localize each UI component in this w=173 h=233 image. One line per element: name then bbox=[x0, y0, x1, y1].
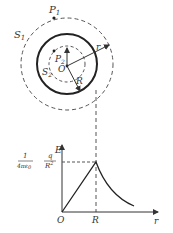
label-o: O bbox=[58, 64, 66, 74]
label-p1: P1 bbox=[48, 4, 60, 17]
label-R: R bbox=[75, 76, 83, 86]
label-s2: S2 bbox=[42, 67, 52, 78]
label-R-tick: R bbox=[91, 215, 99, 225]
label-r-axis: r bbox=[154, 216, 159, 226]
svg-text:1: 1 bbox=[23, 152, 27, 160]
svg-text:q: q bbox=[48, 152, 53, 160]
point-p2 bbox=[53, 50, 56, 53]
label-origin: O bbox=[57, 215, 65, 225]
radius-r-arrow bbox=[67, 45, 109, 66]
label-e-axis: E bbox=[54, 145, 62, 155]
charged-sphere-field-diagram: P1 S1 P2 S2 O r R E r O R 1 4πε0 q R2 bbox=[0, 0, 173, 233]
field-curve bbox=[62, 162, 134, 212]
svg-text:4πε0: 4πε0 bbox=[16, 162, 32, 170]
label-s1: S1 bbox=[14, 29, 25, 42]
label-r: r bbox=[96, 42, 101, 52]
peak-value-formula: 1 4πε0 q R2 bbox=[16, 152, 56, 170]
svg-text:R2: R2 bbox=[44, 160, 53, 170]
